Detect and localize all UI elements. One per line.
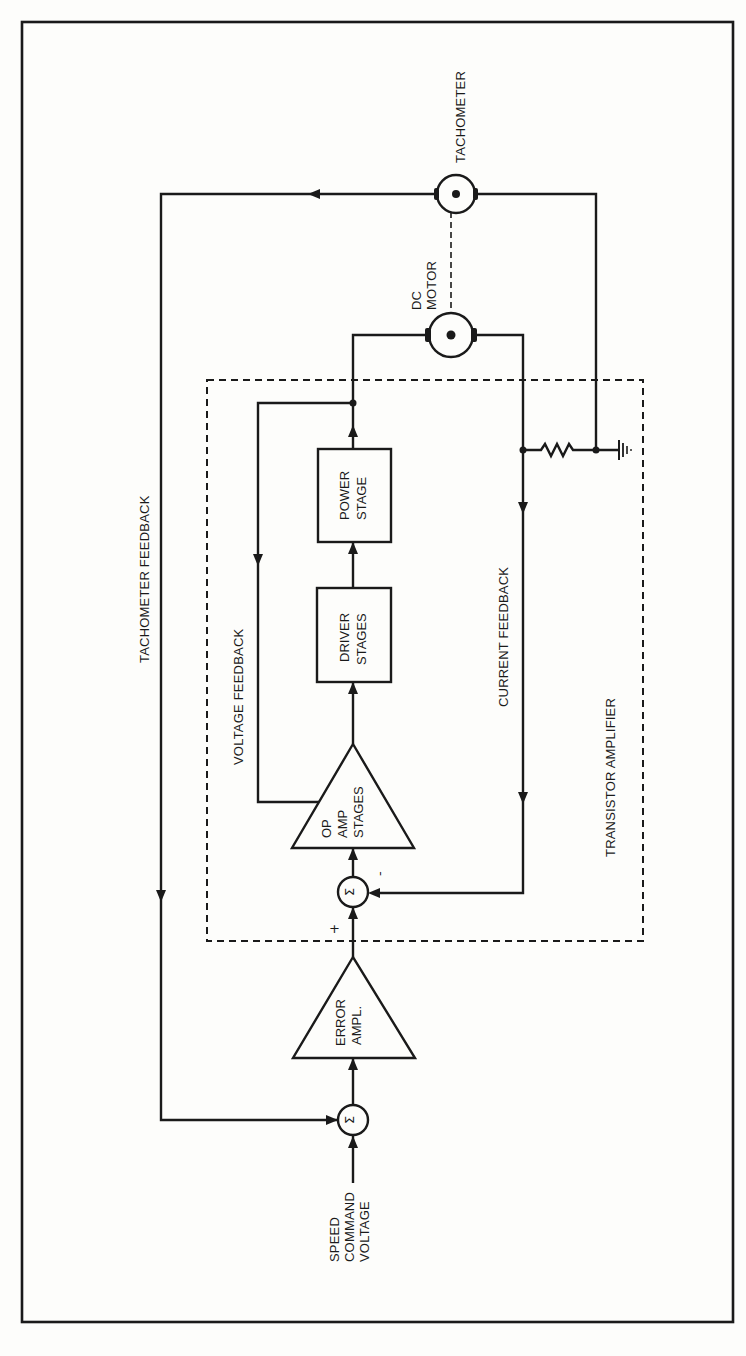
- speed-command-line1: SPEED: [327, 1217, 342, 1262]
- speed-command-line3: VOLTAGE: [357, 1201, 372, 1262]
- op-amp-line2: AMP: [335, 810, 350, 838]
- plus-sign: +: [329, 921, 340, 936]
- transistor-amplifier-label: TRANSISTOR AMPLIFIER: [603, 698, 618, 857]
- op-amp-line3: STAGES: [351, 786, 366, 838]
- dc-motor-label-line2: MOTOR: [424, 261, 439, 310]
- error-amp-line1: ERROR: [333, 999, 348, 1046]
- sigma-icon: Σ: [342, 888, 357, 896]
- ground-icon: [619, 440, 631, 460]
- transistor-amplifier-boundary: [207, 380, 643, 941]
- power-stage-block: POWER STAGE: [318, 449, 391, 542]
- tachometer-ground-wire: [474, 194, 596, 450]
- current-feedback-arrow-down: [518, 792, 528, 804]
- sense-resistor: [520, 444, 619, 456]
- tachometer-label: TACHOMETER: [453, 71, 468, 163]
- power-stage-line2: STAGE: [354, 477, 369, 520]
- tachometer-feedback-path: [156, 189, 438, 1125]
- tachometer-feedback-label: TACHOMETER FEEDBACK: [137, 495, 152, 663]
- driver-stages-block: DRIVER STAGES: [317, 588, 391, 682]
- voltage-feedback-label: VOLTAGE FEEDBACK: [231, 629, 246, 765]
- servo-block-diagram: TACHOMETER DC MOTOR VOLTAGE FEEDBACK: [0, 0, 746, 1356]
- inner-summing-junction: Σ: [338, 877, 368, 907]
- error-amplifier-block: ERROR AMPL.: [293, 957, 415, 1058]
- tachometer: [434, 175, 478, 213]
- op-amp-line1: OP: [319, 819, 334, 838]
- dc-motor-label-line1: DC: [409, 291, 424, 310]
- error-amp-line2: AMPL.: [349, 1006, 364, 1045]
- current-feedback-arrow-into-sum: [368, 888, 380, 898]
- power-stage-line1: POWER: [337, 471, 352, 520]
- outer-summing-junction: Σ: [338, 1105, 368, 1135]
- op-amp-stages-block: OP AMP STAGES: [292, 744, 414, 848]
- driver-stages-line2: STAGES: [354, 613, 369, 665]
- current-feedback-arrow-down-upper: [518, 502, 528, 514]
- driver-stages-line1: DRIVER: [337, 613, 352, 662]
- current-feedback-label: CURRENT FEEDBACK: [496, 567, 511, 707]
- minus-sign: -: [372, 871, 387, 876]
- sigma-icon: Σ: [342, 1116, 357, 1124]
- speed-command-line2: COMMAND: [342, 1192, 357, 1262]
